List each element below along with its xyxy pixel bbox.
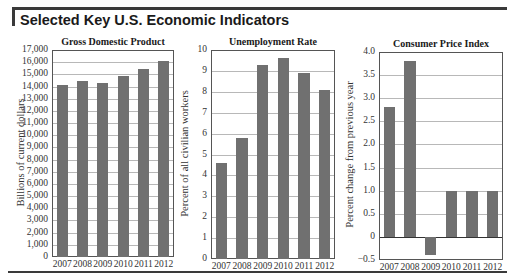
y-tick-label: 1,000 — [4, 239, 48, 249]
gridline — [53, 172, 173, 173]
gridline — [380, 121, 502, 122]
gridline — [53, 233, 173, 234]
gridline — [53, 160, 173, 161]
gridline — [380, 168, 502, 169]
y-tick-label: 4.0 — [331, 46, 375, 56]
y-tick-label: 16,000 — [4, 56, 48, 66]
bar-2010 — [446, 191, 457, 237]
x-tick-label: 2008 — [72, 259, 94, 269]
y-tick-label: 14,000 — [4, 81, 48, 91]
header-left-bracket — [12, 7, 15, 26]
chart-title: Unemployment Rate — [211, 36, 335, 47]
chart-title: Gross Domestic Product — [52, 36, 174, 47]
plot-area — [211, 50, 335, 259]
gridline — [212, 134, 334, 135]
gridline — [53, 245, 173, 246]
gridline — [380, 75, 502, 76]
gridline — [212, 71, 334, 72]
page-title: Selected Key U.S. Economic Indicators — [20, 12, 289, 28]
x-tick-label: 2010 — [112, 259, 134, 269]
gridline — [212, 196, 334, 197]
bar-2009 — [425, 237, 436, 255]
y-tick-label: 13,000 — [4, 93, 48, 103]
x-tick-label: 2011 — [133, 259, 155, 269]
bar-2011 — [138, 69, 149, 257]
gridline — [53, 220, 173, 221]
y-tick-label: 11,000 — [4, 117, 48, 127]
y-tick-label: 10 — [163, 44, 207, 54]
y-axis-label: Billions of current dollars — [15, 62, 26, 242]
y-tick-label: 7,000 — [4, 166, 48, 176]
y-tick-label: 5,000 — [4, 190, 48, 200]
gridline — [380, 191, 502, 192]
y-tick-label: 9,000 — [4, 141, 48, 151]
bar-2008 — [236, 138, 247, 259]
gridline — [212, 238, 334, 239]
chart-title: Consumer Price Index — [379, 38, 503, 49]
bar-2008 — [77, 81, 88, 257]
gridline — [212, 155, 334, 156]
bar-2011 — [298, 73, 309, 259]
gridline — [53, 208, 173, 209]
bar-2007 — [216, 163, 227, 259]
x-tick-label: 2008 — [231, 261, 253, 271]
bar-2012 — [319, 90, 330, 259]
gridline — [53, 184, 173, 185]
zero-line — [380, 237, 502, 238]
bar-2012 — [487, 191, 498, 237]
y-tick-label: 10,000 — [4, 129, 48, 139]
bar-2010 — [118, 76, 129, 257]
y-tick-label: 4,000 — [4, 202, 48, 212]
plot-area — [52, 50, 174, 257]
x-tick-label: 2009 — [92, 259, 114, 269]
gridline — [53, 196, 173, 197]
x-tick-label: 2007 — [51, 259, 73, 269]
bar-2009 — [97, 83, 108, 257]
x-tick-label: 2009 — [252, 261, 274, 271]
gridline — [53, 147, 173, 148]
gridline — [380, 214, 502, 215]
bar-2011 — [466, 191, 477, 237]
bar-2010 — [278, 58, 289, 259]
gridline — [212, 92, 334, 93]
y-tick-label: 0 — [163, 253, 207, 263]
y-tick-label: 8,000 — [4, 154, 48, 164]
y-tick-label: 12,000 — [4, 105, 48, 115]
y-tick-label: 3,000 — [4, 214, 48, 224]
y-tick-label: 2,000 — [4, 227, 48, 237]
gridline — [53, 74, 173, 75]
footer-rule — [8, 271, 507, 273]
y-tick-label: −0.5 — [331, 254, 375, 264]
y-tick-label: 15,000 — [4, 68, 48, 78]
gridline — [380, 144, 502, 145]
y-axis-label: Percent of all civilian workers — [179, 63, 190, 243]
y-axis-label: Percent change from previous year — [344, 65, 355, 245]
gridline — [212, 217, 334, 218]
y-tick-label: 6,000 — [4, 178, 48, 188]
x-tick-label: 2007 — [210, 261, 232, 271]
x-tick-label: 2010 — [272, 261, 294, 271]
y-tick-label: 17,000 — [4, 44, 48, 54]
header-top-rule — [12, 7, 507, 10]
bar-2007 — [57, 85, 68, 257]
gridline — [53, 87, 173, 88]
bar-2008 — [404, 61, 415, 237]
gridline — [212, 175, 334, 176]
gridline — [212, 113, 334, 114]
gridline — [53, 123, 173, 124]
plot-area — [379, 52, 503, 260]
gridline — [53, 135, 173, 136]
bar-2007 — [384, 107, 395, 236]
gridline — [53, 111, 173, 112]
gridline — [380, 98, 502, 99]
bar-2009 — [257, 65, 268, 259]
gridline — [53, 99, 173, 100]
gridline — [53, 62, 173, 63]
x-tick-label: 2011 — [293, 261, 315, 271]
y-tick-label: 0 — [4, 251, 48, 261]
